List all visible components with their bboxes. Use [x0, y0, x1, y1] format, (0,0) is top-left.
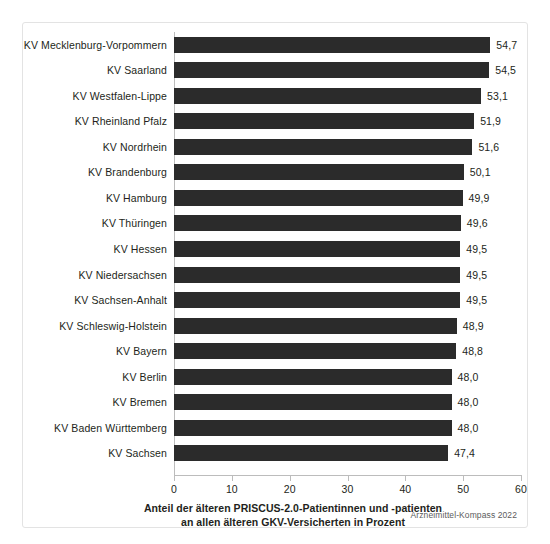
- bar-value-label: 54,5: [495, 64, 516, 76]
- bar-value-label: 49,5: [466, 243, 487, 255]
- category-label: KV Niedersachsen: [78, 269, 167, 281]
- x-axis-tick-label: 0: [171, 483, 177, 495]
- x-axis-tick-label: 10: [226, 483, 238, 495]
- category-label: KV Bremen: [112, 396, 167, 408]
- bar-value-label: 49,5: [466, 294, 487, 306]
- x-axis-tick-label: 30: [342, 483, 354, 495]
- category-label: KV Saarland: [107, 64, 167, 76]
- x-axis-tick: [348, 476, 349, 481]
- bar-row: KV Hessen49,5: [174, 241, 521, 257]
- bar-value-label: 51,9: [480, 115, 501, 127]
- bar-row: KV Mecklenburg-Vorpommern54,7: [174, 37, 521, 53]
- bar: [174, 241, 460, 257]
- x-axis-tick-label: 50: [457, 483, 469, 495]
- category-label: KV Hessen: [114, 243, 167, 255]
- x-axis-tick: [463, 476, 464, 481]
- x-axis-tick: [174, 476, 175, 481]
- bar-chart-plot-area: KV Mecklenburg-Vorpommern54,7KV Saarland…: [174, 32, 521, 466]
- bar-row: KV Berlin48,0: [174, 369, 521, 385]
- bar-row: KV Rheinland Pfalz51,9: [174, 113, 521, 129]
- bar: [174, 215, 461, 231]
- bar: [174, 164, 464, 180]
- category-label: KV Thüringen: [102, 217, 167, 229]
- x-axis-tick-label: 60: [515, 483, 527, 495]
- category-label: KV Nordrhein: [103, 141, 167, 153]
- x-axis-tick-label: 20: [284, 483, 296, 495]
- bar: [174, 37, 490, 53]
- bar: [174, 139, 472, 155]
- source-note: Arzneimittel-Kompass 2022: [411, 510, 517, 520]
- bar-value-label: 50,1: [470, 166, 491, 178]
- bar: [174, 394, 452, 410]
- bar: [174, 420, 452, 436]
- category-label: KV Sachsen: [108, 447, 167, 459]
- category-label: KV Rheinland Pfalz: [75, 115, 167, 127]
- bar-row: KV Saarland54,5: [174, 62, 521, 78]
- category-label: KV Brandenburg: [88, 166, 167, 178]
- bar-row: KV Schleswig-Holstein48,9: [174, 318, 521, 334]
- bar: [174, 318, 457, 334]
- category-label: KV Berlin: [122, 371, 167, 383]
- bar-value-label: 53,1: [487, 90, 508, 102]
- bar: [174, 369, 452, 385]
- category-label: KV Westfalen-Lippe: [73, 90, 167, 102]
- x-axis-tick: [232, 476, 233, 481]
- bar-value-label: 48,0: [458, 371, 479, 383]
- bar: [174, 292, 460, 308]
- bar-row: KV Bremen48,0: [174, 394, 521, 410]
- x-axis-tick: [290, 476, 291, 481]
- category-label: KV Schleswig-Holstein: [59, 320, 167, 332]
- category-label: KV Mecklenburg-Vorpommern: [24, 39, 167, 51]
- bar-value-label: 49,9: [469, 192, 490, 204]
- bar-row: KV Westfalen-Lippe53,1: [174, 88, 521, 104]
- bar-row: KV Niedersachsen49,5: [174, 267, 521, 283]
- bar-value-label: 54,7: [496, 39, 517, 51]
- category-label: KV Hamburg: [106, 192, 167, 204]
- bar-value-label: 48,0: [458, 422, 479, 434]
- x-axis-tick: [405, 476, 406, 481]
- bar-value-label: 48,8: [462, 345, 483, 357]
- figure-frame: KV Mecklenburg-Vorpommern54,7KV Saarland…: [22, 22, 528, 528]
- bar-row: KV Sachsen-Anhalt49,5: [174, 292, 521, 308]
- bar-value-label: 48,0: [458, 396, 479, 408]
- bar: [174, 190, 463, 206]
- bar-row: KV Thüringen49,6: [174, 215, 521, 231]
- bar-row: KV Bayern48,8: [174, 343, 521, 359]
- category-label: KV Sachsen-Anhalt: [74, 294, 167, 306]
- bar: [174, 88, 481, 104]
- bar-row: KV Nordrhein51,6: [174, 139, 521, 155]
- bar: [174, 343, 456, 359]
- bar: [174, 445, 448, 461]
- bar-row: KV Sachsen47,4: [174, 445, 521, 461]
- category-label: KV Bayern: [116, 345, 167, 357]
- x-axis-tick-label: 40: [399, 483, 411, 495]
- category-label: KV Baden Württemberg: [54, 422, 167, 434]
- bar-row: KV Brandenburg50,1: [174, 164, 521, 180]
- x-axis-tick: [521, 476, 522, 481]
- bar-value-label: 47,4: [454, 447, 475, 459]
- bar-value-label: 51,6: [478, 141, 499, 153]
- bar: [174, 62, 489, 78]
- bar-value-label: 49,6: [467, 217, 488, 229]
- bar: [174, 113, 474, 129]
- bar-value-label: 49,5: [466, 269, 487, 281]
- bar: [174, 267, 460, 283]
- bar-value-label: 48,9: [463, 320, 484, 332]
- bar-row: KV Baden Württemberg48,0: [174, 420, 521, 436]
- bar-row: KV Hamburg49,9: [174, 190, 521, 206]
